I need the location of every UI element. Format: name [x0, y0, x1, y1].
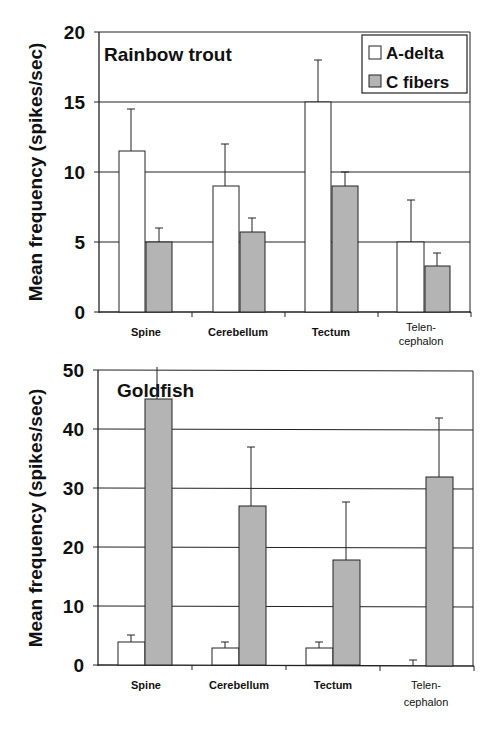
- bar-cfibers-telencephalon: [426, 477, 453, 666]
- bar-group-spine: [118, 367, 172, 665]
- legend-label-cfibers: C fibers: [386, 73, 449, 92]
- bar-adelta-spine: [118, 642, 145, 665]
- x-category-label: Telen-: [411, 679, 441, 691]
- bar-group-tectum: [306, 502, 360, 665]
- bar-cfibers-tectum: [333, 560, 360, 665]
- bar-adelta-cerebellum: [213, 186, 239, 312]
- legend-label-adelta: A-delta: [386, 44, 444, 63]
- y-tick-label: 15: [64, 92, 86, 113]
- bar-adelta-cerebellum: [212, 648, 239, 665]
- x-ticks: [192, 312, 471, 317]
- y-axis-label: Mean frequency (spikes/sec): [25, 43, 46, 302]
- chart-rainbow-trout: 20 15 10 5 0 Mean frequency (spikes/sec)…: [25, 22, 471, 347]
- bar-adelta-spine: [119, 151, 145, 312]
- bar-adelta-telencephalon: [397, 242, 424, 312]
- bar-cfibers-telencephalon: [425, 266, 450, 312]
- bar-adelta-tectum: [305, 102, 331, 312]
- y-ticks: [94, 32, 99, 312]
- y-tick-label: 10: [64, 162, 85, 183]
- y-tick-label: 20: [64, 22, 85, 43]
- chart-title: Goldfish: [117, 380, 194, 401]
- y-tick-label: 30: [63, 478, 84, 499]
- x-category-label: Tectum: [314, 679, 353, 691]
- legend-swatch-adelta: [369, 46, 381, 59]
- x-category-label: cephalon: [399, 335, 444, 347]
- bar-adelta-tectum: [306, 648, 333, 665]
- chart-title: Rainbow trout: [104, 44, 232, 65]
- y-tick-label: 0: [74, 302, 85, 323]
- x-category-label: Spine: [131, 326, 161, 338]
- y-tick-label: 20: [63, 537, 84, 558]
- x-category-label: Tectum: [312, 326, 351, 338]
- y-tick-label: 5: [74, 232, 85, 253]
- bar-group-spine: [119, 109, 172, 312]
- bar-group-telencephalon: [397, 200, 450, 312]
- y-tick-label: 0: [73, 655, 84, 676]
- x-category-label: Telen-: [406, 321, 436, 333]
- bar-group-cerebellum: [212, 447, 266, 665]
- figure: 20 15 10 5 0 Mean frequency (spikes/sec)…: [0, 0, 491, 729]
- bar-group-telencephalon: [409, 418, 453, 666]
- legend-swatch-cfibers: [369, 75, 381, 87]
- bar-cfibers-cerebellum: [240, 232, 265, 312]
- x-category-label: Cerebellum: [208, 326, 268, 338]
- bar-group-tectum: [305, 60, 358, 312]
- y-tick-label: 40: [63, 419, 84, 440]
- y-tick-label: 10: [63, 596, 84, 617]
- x-category-label: Cerebellum: [209, 679, 269, 691]
- bar-group-cerebellum: [213, 144, 265, 312]
- y-ticks: [93, 370, 98, 665]
- bar-cfibers-cerebellum: [239, 506, 266, 665]
- bar-cfibers-spine: [146, 242, 172, 312]
- x-category-label: Spine: [131, 679, 161, 691]
- y-tick-label: 50: [63, 360, 84, 381]
- y-axis-label: Mean frequency (spikes/sec): [25, 389, 46, 648]
- x-category-label: cephalon: [404, 696, 449, 708]
- bar-cfibers-spine: [145, 399, 172, 665]
- chart-goldfish: 50 40 30 20 10 0 Mean frequency (spikes/…: [25, 360, 474, 708]
- legend: A-delta C fibers: [362, 35, 467, 93]
- bar-cfibers-tectum: [332, 186, 358, 312]
